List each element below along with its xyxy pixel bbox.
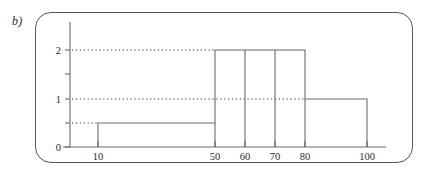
y-tick-labels: 0 1 2 <box>56 45 61 153</box>
axes-group <box>63 22 386 147</box>
bar-80-100 <box>305 99 367 147</box>
x-tick-label-10: 10 <box>93 151 104 162</box>
bar-10-50 <box>98 123 215 147</box>
x-tick-labels: 10 50 60 70 80 100 <box>93 151 375 162</box>
histogram-plot: 0 1 2 10 50 60 70 80 100 <box>0 0 427 178</box>
y-tick-label-1: 1 <box>56 94 61 105</box>
guide-lines-group <box>72 50 305 123</box>
y-tick-label-0: 0 <box>56 142 61 153</box>
x-tick-marks <box>98 141 367 147</box>
y-tick-label-2: 2 <box>56 45 61 56</box>
x-tick-label-70: 70 <box>270 151 281 162</box>
x-tick-label-60: 60 <box>240 151 251 162</box>
histogram-figure: b) <box>0 0 427 178</box>
x-tick-label-50: 50 <box>210 151 221 162</box>
x-tick-label-80: 80 <box>300 151 311 162</box>
y-tick-marks <box>65 50 70 147</box>
x-tick-label-100: 100 <box>359 151 375 162</box>
